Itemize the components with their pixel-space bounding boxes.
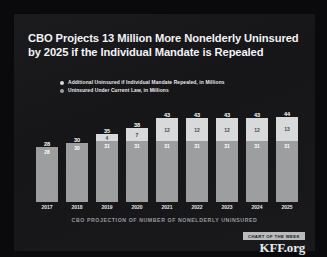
chart-caption: CBO PROJECTION OF NUMBER OF NONELDERLY U… [14, 217, 315, 223]
bar-total-label: 43 [246, 112, 268, 118]
image-border-top [0, 0, 327, 14]
kff-logo: KFF.org [260, 240, 305, 256]
image-border-right [315, 0, 327, 257]
bar-total-label: 43 [216, 112, 238, 118]
bar-group: 2828303035431387314312314312314312314312… [36, 110, 298, 202]
bar-segment-current-law: 31 [156, 141, 178, 202]
chart-of-the-week-badge: CHART OF THE WEEK [243, 232, 305, 240]
x-axis-tick: 2023 [216, 204, 238, 214]
bar-segment-current-law: 31 [126, 141, 148, 202]
x-axis-tick: 2018 [66, 204, 88, 214]
bar-segment-additional: 12 [186, 118, 208, 141]
bar-column: 3030 [66, 110, 88, 202]
legend-label: Additional Uninsured if Individual Manda… [68, 80, 225, 85]
bar-column: 2828 [36, 110, 58, 202]
chart-plot-area: 2828303035431387314312314312314312314312… [36, 110, 298, 202]
bar-segment-additional: 4 [96, 134, 118, 142]
x-axis-tick: 2017 [36, 204, 58, 214]
image-border-left [0, 0, 14, 257]
bar-total-label: 43 [156, 112, 178, 118]
bar-segment-current-law: 31 [96, 141, 118, 202]
x-axis-tick: 2022 [186, 204, 208, 214]
bar-segment-current-law: 30 [66, 143, 88, 202]
x-axis: 201720182019202020212022202320242025 [36, 204, 298, 214]
bar-column: 441331 [276, 110, 298, 202]
bar-segment-current-law: 31 [186, 141, 208, 202]
bar-total-label: 43 [186, 112, 208, 118]
bar-total-label: 35 [96, 128, 118, 134]
bar-column: 431231 [186, 110, 208, 202]
page-title: CBO Projects 13 Million More Nonelderly … [28, 32, 300, 59]
legend-swatch-icon [60, 81, 64, 85]
bar-total-label: 28 [36, 141, 58, 147]
bar-segment-current-law: 31 [216, 141, 238, 202]
legend-item-current-law: Uninsured Under Current Law, in Millions [60, 88, 300, 93]
legend-label: Uninsured Under Current Law, in Millions [68, 88, 169, 93]
chart-image: CBO Projects 13 Million More Nonelderly … [0, 0, 327, 257]
x-axis-tick: 2020 [126, 204, 148, 214]
legend-swatch-icon [60, 89, 64, 93]
chart-legend: Additional Uninsured if Individual Manda… [60, 80, 300, 96]
x-axis-tick: 2025 [276, 204, 298, 214]
bar-column: 431231 [216, 110, 238, 202]
bar-column: 35431 [96, 110, 118, 202]
bar-column: 431231 [246, 110, 268, 202]
x-axis-tick: 2024 [246, 204, 268, 214]
x-axis-tick: 2019 [96, 204, 118, 214]
bar-column: 38731 [126, 110, 148, 202]
bar-total-label: 30 [66, 137, 88, 143]
legend-item-additional-uninsured: Additional Uninsured if Individual Manda… [60, 80, 300, 85]
bar-segment-additional: 13 [276, 117, 298, 142]
chart-card: CBO Projects 13 Million More Nonelderly … [14, 14, 315, 251]
bar-segment-additional: 12 [216, 118, 238, 141]
bar-total-label: 38 [126, 122, 148, 128]
bar-segment-additional: 12 [156, 118, 178, 141]
bar-column: 431231 [156, 110, 178, 202]
bar-total-label: 44 [276, 111, 298, 117]
bar-segment-current-law: 28 [36, 147, 58, 202]
bar-segment-additional: 12 [246, 118, 268, 141]
bar-segment-additional: 7 [126, 128, 148, 141]
x-axis-tick: 2021 [156, 204, 178, 214]
bar-segment-current-law: 31 [276, 141, 298, 202]
bar-segment-current-law: 31 [246, 141, 268, 202]
